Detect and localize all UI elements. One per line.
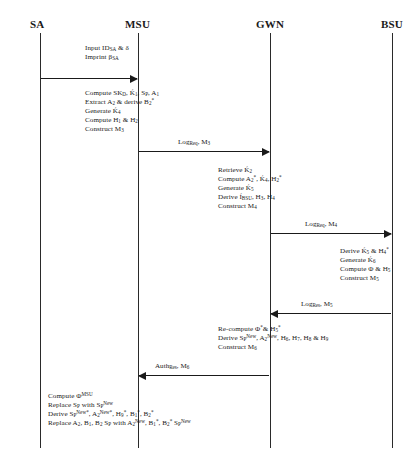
note-sa-input: Input IDSA & δImprint βSA [85,44,129,62]
note-line: Derive Ḱ5 & H4* [340,247,390,256]
message-label-bsu-gwn: LogRes, M5 [301,300,333,309]
message-arrow-gwn-bsu [271,233,391,234]
note-line: Extract A2 & derive B2* [85,98,159,107]
note-line: Generate Ḱ5 [218,184,282,193]
message-label-msu-gwn: LogReq, M3 [178,138,210,147]
lifeline-header-msu: MSU [125,18,150,30]
message-label-gwn-msu: AuthRes, M6 [155,362,189,371]
note-line: Imprint βSA [85,53,129,62]
note-msu-compute: Compute SKD, Ḱ1, SP, A1Extract A2 & deri… [85,89,159,134]
note-line: Generate Ḱ6 [340,256,390,265]
lifeline-header-bsu: BSU [381,18,403,30]
note-gwn-verify: Retrieve Ḱ2Compute A2*, Ḱ4, H2*Generate … [218,166,282,211]
note-msu-final: Compute ΦMSUReplace SP with SPNewDerive … [48,392,191,428]
note-line: Construct M5 [340,274,390,283]
note-line: Derive SPNew, A2New, H6, H7, H8 & H9 [218,334,328,343]
note-line: Construct M6 [218,343,328,352]
note-line: Input IDSA & δ [85,44,129,53]
lifeline-header-sa: SA [30,18,44,30]
lifeline-sa [40,33,41,448]
note-line: Compute A2*, Ḱ4, H2* [218,175,282,184]
note-line: Derive ÍBSU, H3, H4 [218,193,282,202]
message-arrow-gwn-msu [139,375,269,376]
note-line: Generate Ḱ4 [85,107,159,116]
message-arrow-msu-gwn [139,151,269,152]
note-line: Replace A2, B1, B2 SP with A2New, B1*, B… [48,419,191,428]
lifeline-header-gwn: GWN [256,18,284,30]
message-label-gwn-bsu: LogReq, M4 [305,220,337,229]
lifeline-gwn [270,33,271,448]
note-line: Construct M4 [218,202,282,211]
message-arrow-bsu-gwn [271,313,391,314]
message-arrow-sa-msu [41,78,137,79]
note-line: Compute SKD, Ḱ1, SP, A1 [85,89,159,98]
sequence-diagram: SA MSU GWN BSU Input IDSA & δImprint βSA… [0,0,418,466]
note-line: Construct M3 [85,125,159,134]
note-line: Compute ΦMSU [48,392,191,401]
lifeline-bsu [392,33,393,448]
note-line: Compute Φ & H5 [340,265,390,274]
note-gwn-recompute: Re-compute Φ*& H5*Derive SPNew, A2New, H… [218,325,328,352]
note-bsu-derive: Derive Ḱ5 & H4*Generate Ḱ6Compute Φ & H5… [340,247,390,283]
note-line: Replace SP with SPNew [48,401,191,410]
note-line: Retrieve Ḱ2 [218,166,282,175]
note-line: Compute H1 & H2 [85,116,159,125]
